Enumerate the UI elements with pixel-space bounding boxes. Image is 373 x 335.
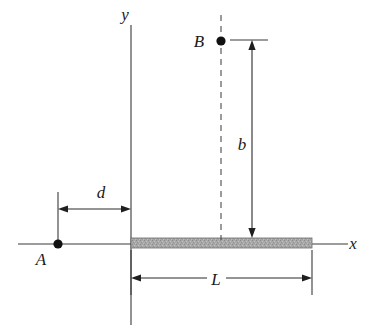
point-a-label: A bbox=[35, 250, 47, 269]
dimension-b-arrow-top bbox=[248, 40, 255, 50]
dimension-l-arrow-left bbox=[131, 274, 141, 281]
dimension-b-arrow-bottom bbox=[248, 228, 255, 238]
dimension-l-arrow-right bbox=[302, 274, 312, 281]
dimension-b-label: b bbox=[238, 135, 247, 154]
point-b-dot bbox=[216, 36, 225, 45]
beam-diagram-figure: y x A B d b L bbox=[0, 0, 373, 335]
y-axis-label: y bbox=[119, 5, 129, 24]
x-axis-label: x bbox=[348, 234, 357, 253]
point-b-label: B bbox=[194, 32, 205, 51]
diagram-canvas: y x A B d b L bbox=[0, 0, 373, 335]
dimension-d-label: d bbox=[97, 183, 106, 202]
dimension-d-arrow-right bbox=[121, 205, 131, 212]
dimension-d-arrow-left bbox=[58, 205, 68, 212]
dimension-l-label: L bbox=[210, 270, 220, 289]
point-a-dot bbox=[53, 239, 62, 248]
